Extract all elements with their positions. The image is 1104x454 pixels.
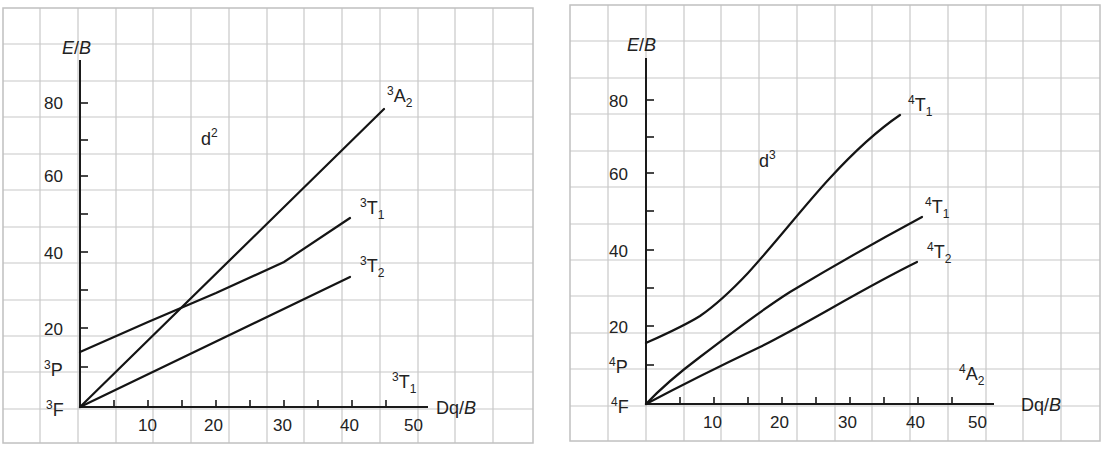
- x-ticks-d2: [114, 400, 386, 407]
- curve-label-4T1-F: 4T1: [925, 195, 950, 221]
- ytick-label: 20: [609, 318, 628, 337]
- config-label-d3: d3: [759, 148, 776, 171]
- curve-3T2: [80, 277, 350, 407]
- curve-label-4T1-P: 4T1: [908, 93, 933, 119]
- ytick-label: 80: [609, 92, 628, 111]
- xtick-label: 10: [703, 413, 722, 432]
- panel-d3: 80 60 40 20 10 20 30 40 50 E/B Dq/B 4P 4…: [570, 5, 1100, 441]
- ytick-label: 20: [44, 320, 63, 339]
- term-p-label-d2: 3P: [44, 358, 63, 380]
- config-label-d2: d2: [201, 126, 218, 149]
- ytick-label: 80: [44, 94, 63, 113]
- curve-label-3T2: 3T2: [360, 254, 385, 280]
- ytick-label: 60: [44, 167, 63, 186]
- x-axis-title-d2: Dq/B: [436, 398, 476, 418]
- ytick-label: 60: [609, 165, 628, 184]
- xtick-label: 40: [340, 416, 359, 435]
- xtick-label: 20: [770, 413, 789, 432]
- frame-d2: [3, 8, 533, 443]
- term-f-label-d2: 3F: [46, 398, 64, 420]
- grid-d3: [570, 5, 1100, 441]
- term-p-label-d3: 4P: [609, 355, 628, 377]
- y-ticks-d3: [646, 100, 654, 365]
- xtick-label: 10: [138, 416, 157, 435]
- xtick-label: 30: [838, 413, 857, 432]
- curve-4T1-F: [646, 217, 922, 404]
- ground-state-label-3T1: 3T1: [392, 370, 417, 396]
- xtick-label: 50: [404, 416, 423, 435]
- ground-state-label-4A2: 4A2: [959, 362, 985, 388]
- y-axis-title-d3: E/B: [627, 35, 656, 55]
- xtick-label: 40: [906, 413, 925, 432]
- ytick-label: 40: [609, 242, 628, 261]
- term-f-label-d3: 4F: [611, 395, 629, 417]
- xtick-label: 50: [968, 413, 987, 432]
- curve-label-3A2: 3A2: [387, 84, 413, 110]
- ytick-label: 40: [44, 244, 63, 263]
- curve-3T1: [80, 218, 350, 352]
- xtick-label: 20: [204, 416, 223, 435]
- y-ticks-d2: [80, 103, 88, 367]
- grid-d2: [3, 8, 533, 443]
- x-axis-title-d3: Dq/B: [1021, 395, 1061, 415]
- xtick-label: 30: [273, 416, 292, 435]
- panel-d2: 80 60 40 20 10 20 30 40 50 E/B Dq/B 3P 3…: [3, 8, 533, 443]
- y-axis-title-d2: E/B: [62, 38, 91, 58]
- curve-label-3T1: 3T1: [360, 196, 385, 222]
